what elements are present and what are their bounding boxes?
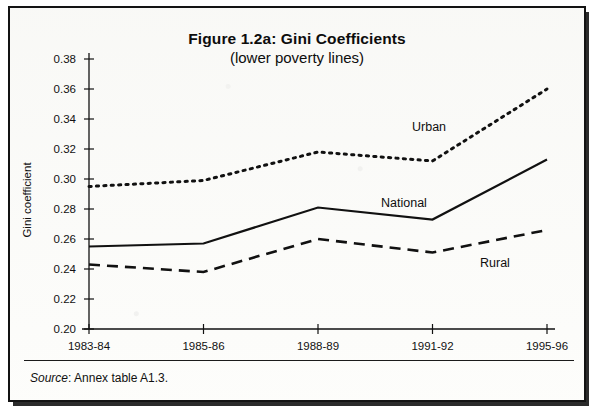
y-axis-tick-label: 0.24 bbox=[36, 263, 76, 275]
y-axis-tick-label: 0.38 bbox=[36, 53, 76, 65]
y-axis-tick-label: 0.32 bbox=[36, 143, 76, 155]
x-axis-tick-label: 1995-96 bbox=[507, 340, 586, 352]
plot-area: Gini coefficient 0.380.360.340.320.300.2… bbox=[10, 8, 586, 402]
y-axis-tick-label: 0.26 bbox=[36, 233, 76, 245]
series-annotation-rural: Rural bbox=[480, 256, 510, 270]
source-separator: : bbox=[68, 371, 71, 385]
source-text: Annex table A1.3. bbox=[74, 371, 168, 385]
series-line-rural bbox=[89, 230, 547, 272]
series-annotation-urban: Urban bbox=[412, 120, 446, 134]
x-axis-tick-label: 1988-89 bbox=[278, 340, 358, 352]
source-note: Source: Annex table A1.3. bbox=[30, 371, 168, 385]
series-annotation-national: National bbox=[381, 196, 427, 210]
series-line-national bbox=[89, 160, 547, 247]
y-axis-tick-label: 0.28 bbox=[36, 203, 76, 215]
figure-frame: Figure 1.2a: Gini Coefficients (lower po… bbox=[8, 6, 586, 402]
x-axis-tick-label: 1983-84 bbox=[49, 340, 129, 352]
y-axis-tick-label: 0.20 bbox=[36, 323, 76, 335]
y-axis-tick-label: 0.36 bbox=[36, 83, 76, 95]
y-axis-title: Gini coefficient bbox=[21, 140, 33, 260]
y-axis-tick-label: 0.34 bbox=[36, 113, 76, 125]
series-line-urban bbox=[89, 89, 547, 187]
x-axis-tick-label: 1985-86 bbox=[164, 340, 244, 352]
y-axis-tick-label: 0.30 bbox=[36, 173, 76, 185]
source-label: Source bbox=[30, 371, 68, 385]
x-axis-tick-label: 1991-92 bbox=[393, 340, 473, 352]
series-group bbox=[89, 89, 547, 272]
source-divider bbox=[24, 360, 574, 361]
y-axis-tick-label: 0.22 bbox=[36, 293, 76, 305]
